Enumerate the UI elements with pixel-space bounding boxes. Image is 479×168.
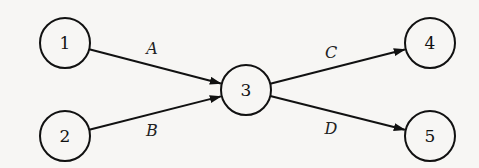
- node-label-5: 5: [425, 126, 436, 146]
- edge-label-c: C: [325, 43, 337, 62]
- edge-line-c: [270, 49, 405, 83]
- network-diagram: A B C D 1 2 3 4: [0, 0, 479, 168]
- node-label-3: 3: [241, 80, 252, 100]
- edge-1-3: A: [89, 39, 221, 84]
- edge-2-3: B: [89, 96, 221, 139]
- edge-3-5: D: [270, 96, 405, 137]
- node-label-2: 2: [60, 126, 71, 146]
- edge-line-d: [270, 96, 405, 130]
- node-2: 2: [40, 111, 90, 161]
- node-5: 5: [405, 111, 455, 161]
- nodes-group: 1 2 3 4 5: [40, 18, 455, 161]
- edge-3-4: C: [270, 43, 405, 84]
- edge-label-a: A: [144, 39, 158, 58]
- node-label-4: 4: [425, 33, 436, 53]
- edge-label-b: B: [145, 121, 158, 140]
- edge-label-d: D: [324, 119, 338, 138]
- node-4: 4: [405, 18, 455, 68]
- node-1: 1: [40, 18, 90, 68]
- node-label-1: 1: [60, 33, 71, 53]
- node-3: 3: [221, 65, 271, 115]
